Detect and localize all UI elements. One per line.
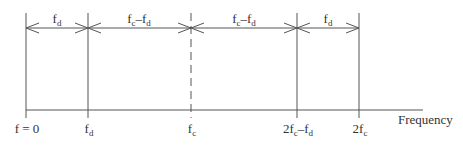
span-label-fd-2: fd <box>324 12 333 25</box>
marker-label-fd: fd <box>85 122 94 135</box>
marker-label-fc: fc <box>188 122 196 135</box>
span-label-fc-fd-1: fc–fd <box>127 12 151 25</box>
marker-label-2fc: 2fc <box>353 122 368 135</box>
span-label-fc-fd-2: fc–fd <box>232 12 256 25</box>
marker-label-f0: f = 0 <box>15 122 40 135</box>
span-label-fd-1: fd <box>53 12 62 25</box>
marker-label-2fc-fd: 2fc–fd <box>283 122 313 135</box>
axis-label-frequency: Frequency <box>398 113 453 126</box>
